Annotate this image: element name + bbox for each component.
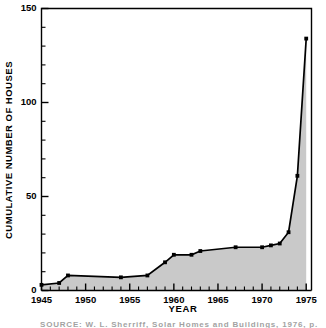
data-point-marker [304, 37, 308, 41]
data-point-marker [190, 253, 194, 257]
y-axis-tick-labels: 050100150 [21, 2, 37, 295]
x-tick-label: 1955 [119, 294, 141, 305]
chart-svg: 050100150 1945195019551960196519701975 Y… [0, 0, 326, 328]
y-axis-ticks [42, 9, 49, 291]
data-point-marker [260, 245, 264, 249]
x-axis-title: YEAR [169, 303, 198, 314]
x-tick-label: 1975 [296, 294, 318, 305]
data-point-marker [163, 260, 167, 264]
data-point-marker [198, 249, 202, 253]
data-point-marker [295, 174, 299, 178]
x-tick-label: 1950 [75, 294, 96, 305]
y-tick-label: 50 [26, 190, 37, 201]
x-tick-label: 1965 [207, 294, 229, 305]
data-point-marker [269, 243, 273, 247]
cumulative-houses-area-chart: 050100150 1945195019551960196519701975 Y… [0, 0, 326, 328]
y-axis-title: CUMULATIVE NUMBER OF HOUSES [3, 61, 14, 239]
plot-area-fill [42, 39, 307, 291]
source-note: SOURCE: W. L. Sherriff, Solar Homes and … [40, 320, 320, 328]
data-point-marker [66, 274, 70, 278]
data-point-marker [119, 275, 123, 279]
y-tick-label: 100 [21, 96, 37, 107]
data-point-marker [145, 274, 149, 278]
y-tick-label: 150 [21, 2, 37, 13]
data-point-marker [278, 242, 282, 246]
data-point-marker [57, 281, 61, 285]
x-tick-label: 1945 [31, 294, 53, 305]
series-area-shape [42, 39, 307, 291]
data-point-marker [234, 245, 238, 249]
x-tick-label: 1970 [252, 294, 273, 305]
chart-page: 050100150 1945195019551960196519701975 Y… [0, 0, 326, 328]
data-point-marker [172, 253, 176, 257]
data-point-marker [40, 283, 44, 287]
data-point-marker [287, 230, 291, 234]
